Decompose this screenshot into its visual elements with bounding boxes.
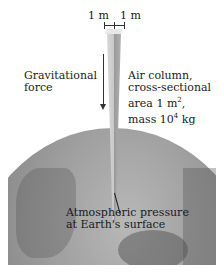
- air-column-top: [105, 29, 123, 34]
- surface-pressure-label: Atmospheric pressure at Earth's surface: [66, 207, 189, 231]
- gravity-arrow-shaft: [103, 54, 104, 106]
- dimension-label-left: 1 m: [88, 10, 109, 22]
- dimension-line: [104, 25, 125, 26]
- gravity-arrow-icon: [100, 104, 106, 110]
- air-column-label: Air column, cross-sectional area 1 m2, m…: [128, 70, 211, 125]
- gulf-of-mexico-region: [118, 230, 188, 265]
- dimension-label-right: 1 m: [120, 10, 141, 22]
- gravity-label: Gravitational force: [24, 70, 97, 94]
